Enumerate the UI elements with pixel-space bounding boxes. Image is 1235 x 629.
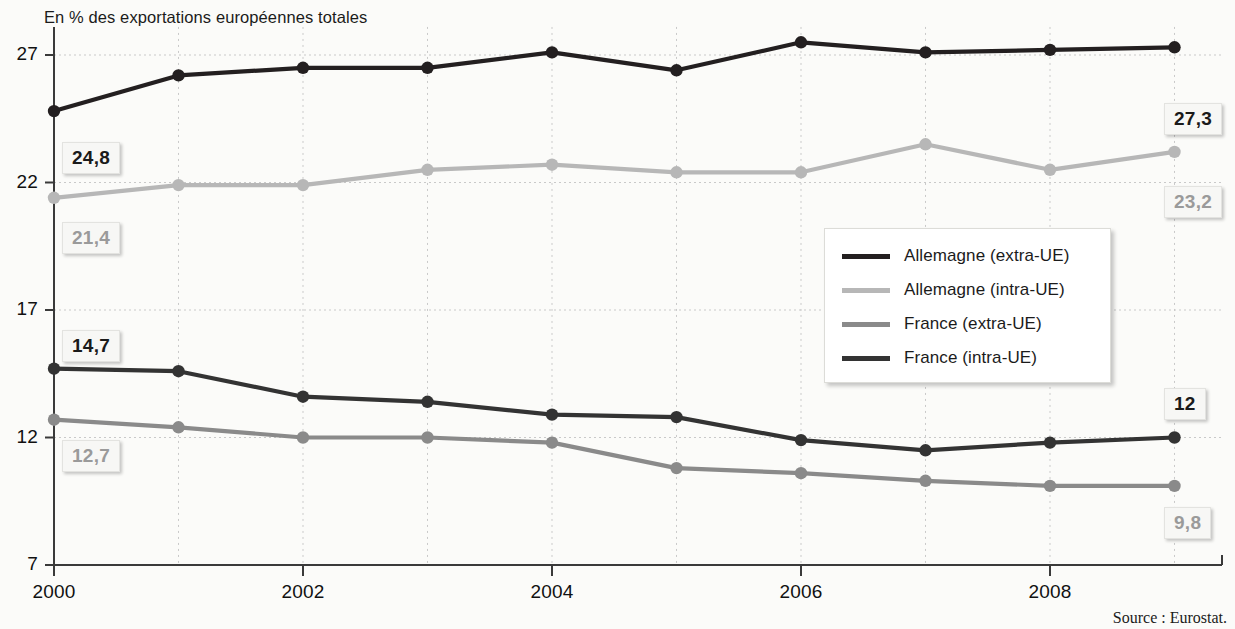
x-tick-label-2004: 2004 xyxy=(512,581,592,603)
series-point xyxy=(421,431,433,443)
legend-row-3[interactable]: France (intra-UE) xyxy=(825,341,1110,375)
series-point xyxy=(670,462,682,474)
legend-swatch-icon xyxy=(842,356,890,361)
series-point xyxy=(1044,164,1056,176)
series-point xyxy=(546,408,558,420)
series-point xyxy=(795,434,807,446)
series-point xyxy=(297,391,309,403)
series-point xyxy=(670,166,682,178)
series-point xyxy=(670,64,682,76)
series-point xyxy=(1044,436,1056,448)
series-point xyxy=(1168,146,1180,158)
series-point xyxy=(172,69,184,81)
legend-row-1[interactable]: Allemagne (intra-UE) xyxy=(825,273,1110,307)
series-point xyxy=(919,444,931,456)
legend-swatch-icon xyxy=(842,288,890,293)
series-point xyxy=(795,36,807,48)
y-tick-label-7: 7 xyxy=(4,553,38,575)
callout-france-extra-end: 9,8 xyxy=(1164,507,1211,539)
x-tick-label-2000: 2000 xyxy=(14,581,94,603)
series-point xyxy=(48,363,60,375)
callout-allemagne-extra-start: 24,8 xyxy=(62,142,120,174)
series-point xyxy=(919,138,931,150)
callout-france-intra-end: 12 xyxy=(1164,388,1206,420)
y-tick-label-12: 12 xyxy=(4,426,38,448)
legend-row-0[interactable]: Allemagne (extra-UE) xyxy=(825,239,1110,273)
y-tick-label-27: 27 xyxy=(4,43,38,65)
series-point xyxy=(919,46,931,58)
legend-label: France (extra-UE) xyxy=(904,314,1042,334)
y-tick-label-22: 22 xyxy=(4,171,38,193)
series-point xyxy=(421,396,433,408)
x-tick-label-2006: 2006 xyxy=(761,581,841,603)
series-point xyxy=(1044,44,1056,56)
series-point xyxy=(297,62,309,74)
chart-root: En % des exportations européennes totale… xyxy=(0,0,1235,629)
series-point xyxy=(297,431,309,443)
series-point xyxy=(1168,480,1180,492)
series-point xyxy=(48,105,60,117)
series-point xyxy=(172,179,184,191)
series-point xyxy=(919,475,931,487)
callout-france-intra-start: 14,7 xyxy=(62,330,120,362)
series-point xyxy=(297,179,309,191)
series-point xyxy=(546,436,558,448)
series-point xyxy=(795,166,807,178)
callout-allemagne-intra-start: 21,4 xyxy=(62,222,120,254)
series-point xyxy=(421,164,433,176)
source-note: Source : Eurostat. xyxy=(1113,609,1227,627)
chart-legend: Allemagne (extra-UE)Allemagne (intra-UE)… xyxy=(824,228,1111,383)
series-point xyxy=(795,467,807,479)
legend-label: Allemagne (intra-UE) xyxy=(904,280,1065,300)
legend-label: Allemagne (extra-UE) xyxy=(904,246,1069,266)
series-point xyxy=(1168,41,1180,53)
legend-row-2[interactable]: France (extra-UE) xyxy=(825,307,1110,341)
series-point xyxy=(172,421,184,433)
series-line-1 xyxy=(54,144,1175,198)
legend-swatch-icon xyxy=(842,254,890,259)
series-point xyxy=(546,46,558,58)
series-point xyxy=(670,411,682,423)
series-point xyxy=(421,62,433,74)
legend-swatch-icon xyxy=(842,322,890,327)
series-line-0 xyxy=(54,42,1175,111)
series-point xyxy=(172,365,184,377)
callout-allemagne-intra-end: 23,2 xyxy=(1164,186,1222,218)
series-point xyxy=(1168,431,1180,443)
callout-france-extra-start: 12,7 xyxy=(62,440,120,472)
legend-label: France (intra-UE) xyxy=(904,348,1037,368)
series-line-2 xyxy=(54,420,1175,486)
x-tick-label-2002: 2002 xyxy=(263,581,343,603)
series-point xyxy=(546,159,558,171)
callout-allemagne-extra-end: 27,3 xyxy=(1164,103,1222,135)
series-point xyxy=(48,192,60,204)
series-point xyxy=(48,414,60,426)
series-point xyxy=(1044,480,1056,492)
x-tick-label-2008: 2008 xyxy=(1010,581,1090,603)
y-tick-label-17: 17 xyxy=(4,298,38,320)
